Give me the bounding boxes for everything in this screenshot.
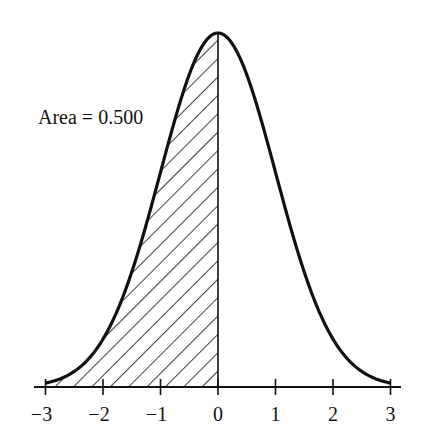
x-tick-label: 2: [328, 403, 338, 425]
x-tick-label: 1: [271, 403, 281, 425]
x-tick-label: −1: [146, 403, 167, 425]
area-annotation: Area = 0.500: [38, 106, 143, 128]
normal-distribution-chart: −3−2−10123 Area = 0.500: [0, 0, 423, 444]
shaded-area-left-half: [46, 33, 219, 387]
x-axis-tick-labels: −3−2−10123: [31, 403, 396, 425]
x-tick-label: 3: [386, 403, 396, 425]
x-tick-label: −3: [31, 403, 52, 425]
x-tick-label: −2: [88, 403, 109, 425]
x-tick-label: 0: [213, 403, 223, 425]
